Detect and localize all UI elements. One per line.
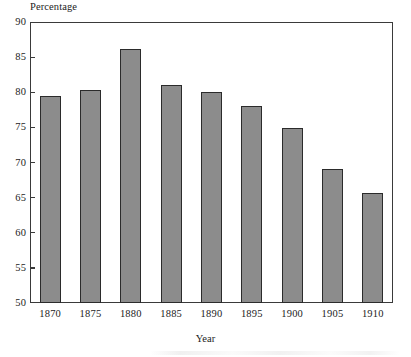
y-tick-label: 75: [0, 122, 26, 132]
bar: [362, 193, 383, 303]
y-tick-label: 80: [0, 87, 26, 97]
x-axis-title: Year: [0, 333, 411, 345]
bar: [80, 90, 101, 303]
bar: [241, 106, 262, 303]
bar: [322, 169, 343, 303]
bar: [120, 49, 141, 303]
y-axis-title: Percentage: [30, 1, 77, 13]
y-tick-label: 50: [0, 298, 26, 308]
y-tick-label: 85: [0, 52, 26, 62]
scan-artifact: [150, 351, 400, 355]
x-tick-label: 1910: [348, 308, 398, 320]
bar: [282, 128, 303, 303]
bars-group: [30, 22, 393, 303]
y-tick-label: 55: [0, 263, 26, 273]
y-tick-label: 90: [0, 17, 26, 27]
bar: [40, 96, 61, 303]
bar: [161, 85, 182, 303]
y-tick-label: 60: [0, 228, 26, 238]
y-tick-label: 65: [0, 193, 26, 203]
bar-chart: Percentage 505560657075808590 1870187518…: [0, 0, 411, 357]
y-tick-label: 70: [0, 158, 26, 168]
bar: [201, 92, 222, 303]
